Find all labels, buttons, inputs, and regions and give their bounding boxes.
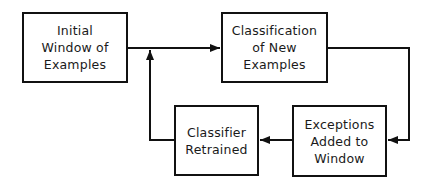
- flowchart-canvas: Initial Window of Examples Classificatio…: [0, 0, 433, 187]
- node-exceptions-added-label: Exceptions Added to Window: [304, 116, 374, 167]
- node-classification-label: Classification of New Examples: [232, 22, 318, 73]
- node-exceptions-added: Exceptions Added to Window: [292, 105, 387, 177]
- node-classifier-retrained: Classifier Retrained: [174, 105, 259, 176]
- node-classifier-retrained-label: Classifier Retrained: [185, 124, 247, 158]
- node-classification: Classification of New Examples: [221, 12, 328, 83]
- node-initial-window-label: Initial Window of Examples: [41, 22, 108, 73]
- node-initial-window: Initial Window of Examples: [22, 12, 128, 83]
- edge-retrained-to-junction: [150, 50, 174, 140]
